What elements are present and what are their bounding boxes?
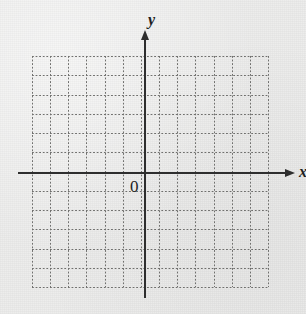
x-axis-label: x — [299, 164, 306, 180]
grid-line-horizontal — [32, 75, 268, 76]
grid-line-horizontal — [32, 152, 268, 153]
grid-line-horizontal — [32, 287, 268, 288]
y-axis-line — [144, 40, 146, 298]
grid-line-horizontal — [32, 56, 268, 57]
grid-line-horizontal — [32, 191, 268, 192]
y-axis-label: y — [148, 12, 155, 28]
grid-line-horizontal — [32, 114, 268, 115]
y-axis-arrow-icon — [141, 30, 149, 40]
grid-line-horizontal — [32, 229, 268, 230]
x-axis-line — [18, 172, 285, 174]
grid-line-horizontal — [32, 268, 268, 269]
figure-root: x y 0 — [0, 0, 306, 314]
grid-line-horizontal — [32, 95, 268, 96]
grid-line-horizontal — [32, 249, 268, 250]
grid-line-horizontal — [32, 133, 268, 134]
grid-line-horizontal — [32, 210, 268, 211]
coordinate-plane: x y 0 — [0, 0, 306, 314]
x-axis-arrow-icon — [285, 169, 295, 177]
origin-label: 0 — [130, 178, 139, 195]
